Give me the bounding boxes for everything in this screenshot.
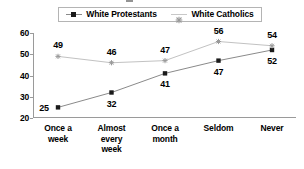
value-label-protestants: 41 <box>160 80 170 89</box>
value-label-protestants: 32 <box>107 99 117 108</box>
line-chart: White Protestants White Catholics <box>0 0 304 169</box>
value-label-catholics: 54 <box>267 30 277 39</box>
value-label-protestants: 25 <box>39 104 49 113</box>
value-label-catholics: 47 <box>160 45 170 54</box>
value-label-catholics: 56 <box>214 26 224 35</box>
value-label-protestants: 52 <box>267 57 277 66</box>
value-label-protestants: 47 <box>214 67 224 76</box>
data-value-labels: 49464756542532414752 <box>0 0 304 169</box>
value-label-catholics: 49 <box>53 41 63 50</box>
value-label-catholics: 46 <box>107 47 117 56</box>
